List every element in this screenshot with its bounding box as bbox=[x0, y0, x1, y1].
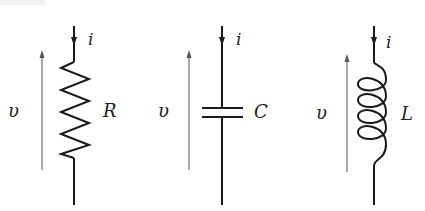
inductor-element: υ i L bbox=[316, 26, 413, 205]
component-label: L bbox=[400, 103, 413, 124]
current-arrowhead-icon bbox=[371, 37, 377, 46]
current-arrowhead-icon bbox=[219, 37, 225, 46]
voltage-arrowhead-icon bbox=[187, 50, 192, 58]
voltage-label: υ bbox=[8, 100, 19, 121]
resistor-element: υ i R bbox=[8, 26, 117, 205]
voltage-label: υ bbox=[158, 100, 169, 121]
circuit-elements-diagram: υ i R υ i C υ i L bbox=[0, 0, 425, 211]
component-label: R bbox=[102, 100, 117, 121]
voltage-arrowhead-icon bbox=[345, 54, 350, 62]
voltage-label: υ bbox=[316, 102, 327, 123]
resistor-zigzag bbox=[61, 62, 89, 158]
component-label: C bbox=[254, 101, 268, 122]
current-label: i bbox=[88, 29, 93, 49]
voltage-arrowhead-icon bbox=[40, 50, 45, 58]
capacitor-element: υ i C bbox=[158, 26, 268, 205]
current-label: i bbox=[236, 29, 241, 49]
inductor-coil bbox=[358, 62, 386, 166]
current-arrowhead-icon bbox=[71, 37, 77, 46]
current-label: i bbox=[386, 32, 391, 52]
